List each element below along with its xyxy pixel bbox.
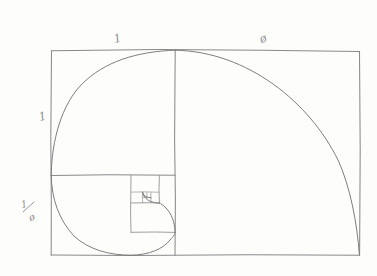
outer-rect-left-edge — [51, 51, 52, 255]
paper-background — [0, 0, 377, 276]
outer-rect-bottom-edge — [51, 255, 359, 256]
divider-horizontal — [51, 175, 175, 176]
sketch-page: 1 ø 1 1 ø — [0, 0, 377, 276]
golden-ratio-spiral-diagram: 1 ø 1 1 ø — [0, 0, 377, 276]
